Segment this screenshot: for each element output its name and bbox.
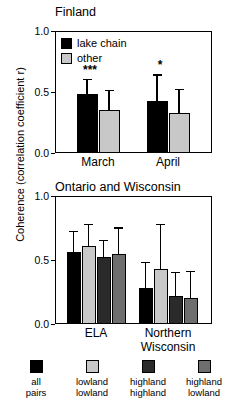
bar-finland-g1-s1 (169, 113, 190, 153)
legend-label-line1: highland (118, 377, 178, 388)
error-bar-ontario-wisconsin-g1-s3 (190, 272, 191, 299)
y-tick-mark-ontario-wisconsin (51, 260, 55, 261)
x-axis-label-finland-1: April (118, 156, 218, 169)
error-cap-finland-g0-s1 (105, 90, 114, 91)
bar-ontario-wisconsin-g1-s3 (184, 298, 198, 324)
legend-label-line2: lowland (62, 388, 122, 399)
plot-legend-label-1: other (77, 53, 102, 64)
legend-swatch-lowland-lowland (86, 360, 99, 373)
plot-legend-swatch-1 (61, 53, 72, 64)
error-cap-finland-g1-s1 (175, 89, 184, 90)
legend-label-line1: highland (174, 377, 234, 388)
error-cap-ontario-wisconsin-g1-s1 (156, 224, 165, 225)
panel-title-ontario-wisconsin: Ontario and Wisconsin (55, 181, 181, 194)
error-bar-finland-g0-s1 (108, 91, 109, 111)
y-tick-mark-ontario-wisconsin (51, 324, 55, 325)
error-cap-ontario-wisconsin-g1-s3 (186, 271, 195, 272)
y-tick-mark-finland (51, 31, 55, 32)
bar-finland-g0-s0 (77, 94, 98, 153)
error-bar-ontario-wisconsin-g0-s2 (103, 241, 104, 258)
error-bar-ontario-wisconsin-g1-s1 (160, 224, 161, 269)
bar-ontario-wisconsin-g0-s3 (112, 254, 126, 324)
legend-swatch-highland-highland (142, 360, 155, 373)
error-bar-finland-g0-s0 (86, 80, 87, 95)
significance-marker-finland-1: * (145, 60, 175, 70)
plot-legend-label-0: lake chain (77, 38, 127, 49)
legend-swatch-all-pairs (30, 360, 43, 373)
figure: Coherence (correlation coefficient r) Fi… (0, 0, 236, 417)
y-tick-label-finland: 0.0 (23, 148, 49, 158)
error-cap-ontario-wisconsin-g0-s1 (84, 224, 93, 225)
y-tick-mark-finland (51, 92, 55, 93)
plot-legend-swatch-0 (61, 38, 72, 49)
legend-item-highland-highland: highland highland (118, 360, 178, 398)
y-tick-label-finland: 1.0 (23, 26, 49, 36)
y-tick-mark-ontario-wisconsin (51, 196, 55, 197)
error-cap-ontario-wisconsin-g1-s0 (141, 262, 150, 263)
bar-finland-g1-s0 (147, 101, 168, 153)
legend-label-line1: lowland (62, 377, 122, 388)
error-bar-ontario-wisconsin-g0-s3 (118, 228, 119, 254)
bar-ontario-wisconsin-g1-s0 (139, 288, 153, 324)
y-tick-mark-finland (51, 153, 55, 154)
error-bar-finland-g1-s1 (178, 90, 179, 113)
x-axis-label-ontario-wisconsin-1: Northern (118, 327, 218, 340)
bar-ontario-wisconsin-g1-s1 (154, 269, 168, 324)
bar-ontario-wisconsin-g0-s2 (97, 257, 111, 324)
bar-finland-g0-s1 (99, 110, 120, 153)
legend-label-line2: lowland (174, 388, 234, 399)
error-bar-ontario-wisconsin-g0-s1 (88, 224, 89, 246)
plot-legend-item-0: lake chain (61, 38, 127, 49)
y-tick-label-ontario-wisconsin: 0.5 (23, 255, 49, 265)
legend-label-line1: all (8, 377, 64, 388)
bar-ontario-wisconsin-g0-s0 (67, 252, 81, 324)
bar-ontario-wisconsin-g1-s2 (169, 296, 183, 324)
significance-marker-finland-0: *** (75, 65, 105, 75)
legend-label-line2: highland (118, 388, 178, 399)
panel-title-finland: Finland (55, 6, 96, 19)
error-bar-ontario-wisconsin-g1-s2 (175, 273, 176, 296)
error-bar-finland-g1-s0 (156, 75, 157, 101)
y-tick-label-ontario-wisconsin: 1.0 (23, 191, 49, 201)
error-cap-ontario-wisconsin-g0-s0 (69, 231, 78, 232)
error-bar-ontario-wisconsin-g1-s0 (145, 263, 146, 289)
plot-legend-item-1: other (61, 53, 102, 64)
error-cap-ontario-wisconsin-g0-s2 (99, 240, 108, 241)
error-cap-finland-g0-s0 (83, 79, 92, 80)
error-cap-ontario-wisconsin-g1-s2 (171, 272, 180, 273)
legend-item-lowland-lowland: lowland lowland (62, 360, 122, 398)
error-cap-finland-g1-s0 (153, 74, 162, 75)
legend-label-line2: pairs (8, 388, 64, 399)
y-tick-label-finland: 0.5 (23, 87, 49, 97)
legend-swatch-highland-lowland (198, 360, 211, 373)
x-axis-label-ontario-wisconsin-1-line2: Wisconsin (118, 341, 218, 354)
legend-item-highland-lowland: highland lowland (174, 360, 234, 398)
error-bar-ontario-wisconsin-g0-s0 (73, 232, 74, 252)
bar-ontario-wisconsin-g0-s1 (82, 246, 96, 324)
error-cap-ontario-wisconsin-g0-s3 (114, 227, 123, 228)
legend-item-all-pairs: all pairs (8, 360, 64, 398)
